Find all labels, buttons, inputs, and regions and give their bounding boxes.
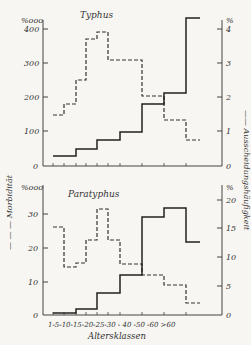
paratyphus-ausscheidung-line bbox=[53, 208, 200, 313]
svg-text:400: 400 bbox=[23, 25, 39, 34]
svg-text:0: 0 bbox=[33, 311, 38, 320]
svg-text:20: 20 bbox=[225, 196, 236, 205]
paratyphus-morbiditaet-line bbox=[53, 209, 200, 303]
x-axis-label: Altersklassen bbox=[87, 331, 146, 341]
left-unit-top: %ooo bbox=[21, 16, 43, 25]
right-unit-bottom: % bbox=[226, 183, 234, 192]
paratyphus-panel bbox=[43, 185, 222, 315]
svg-text:10: 10 bbox=[28, 278, 38, 287]
svg-text:30: 30 bbox=[28, 210, 38, 219]
svg-text:100: 100 bbox=[24, 127, 39, 136]
chart-figure: %ooo 4003002001000 % 43210 Typhus %ooo 3… bbox=[0, 0, 251, 345]
svg-text:300: 300 bbox=[24, 59, 39, 68]
paratyphus-title: Paratyphus bbox=[67, 189, 120, 199]
svg-text:0: 0 bbox=[226, 311, 231, 320]
svg-text:0: 0 bbox=[226, 162, 231, 171]
svg-text:0: 0 bbox=[33, 162, 38, 171]
svg-text:1: 1 bbox=[226, 127, 231, 136]
svg-text:20: 20 bbox=[27, 244, 38, 253]
typhus-ausscheidung-line bbox=[53, 18, 200, 156]
svg-text:5: 5 bbox=[226, 282, 231, 291]
typhus-title: Typhus bbox=[80, 10, 113, 20]
left-side-label: — — — Morbidität bbox=[5, 174, 14, 250]
x-tick-labels: 1-5-10-15-20-25-30 - 40 -50 -60 >60 bbox=[48, 321, 176, 329]
svg-text:10: 10 bbox=[226, 253, 236, 262]
svg-text:3: 3 bbox=[226, 59, 231, 68]
right-side-label: —— Ausscheidungshäufigkeit bbox=[242, 110, 251, 231]
svg-text:2: 2 bbox=[225, 93, 231, 102]
svg-text:15: 15 bbox=[226, 224, 236, 233]
svg-text:4: 4 bbox=[225, 25, 231, 34]
right-unit-top: % bbox=[226, 16, 234, 25]
typhus-morbiditaet-line bbox=[53, 32, 200, 140]
typhus-panel bbox=[43, 18, 222, 166]
left-unit-bottom: %ooo bbox=[21, 183, 43, 192]
svg-text:200: 200 bbox=[23, 93, 39, 102]
